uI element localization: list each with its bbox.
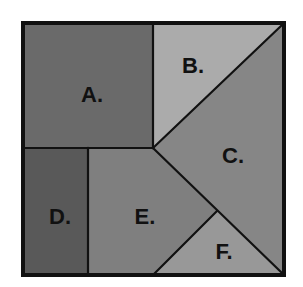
piece-label-b: B. <box>182 53 204 78</box>
piece-label-a: A. <box>81 82 103 107</box>
piece-label-c: C. <box>222 143 244 168</box>
piece-label-e: E. <box>135 204 156 229</box>
piece-label-f: F. <box>215 239 232 264</box>
piece-label-d: D. <box>49 204 71 229</box>
dissection-puzzle-diagram: A.B.C.D.E.F. <box>0 0 303 287</box>
